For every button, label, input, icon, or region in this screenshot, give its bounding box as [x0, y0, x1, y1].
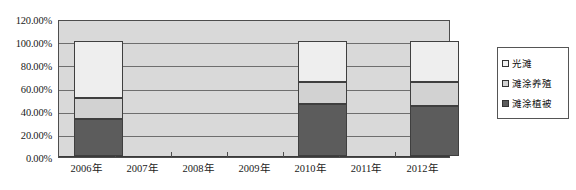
bar-segment-aqua-2006[interactable] — [74, 98, 123, 119]
y-tick-label: 120.00% — [16, 15, 52, 26]
bar-segment-aqua-2010[interactable] — [298, 82, 347, 104]
x-tick — [227, 152, 228, 157]
x-tick-label-2012: 2012年 — [407, 160, 438, 175]
plot-area — [58, 20, 450, 158]
bar-segment-flat-2010[interactable] — [298, 41, 347, 82]
y-tick-label: 80.00% — [21, 61, 52, 72]
legend-label: 滩涂植被 — [512, 96, 552, 110]
bar-segment-flat-2006[interactable] — [74, 41, 123, 98]
y-tick-label: 0.00% — [26, 153, 52, 164]
y-tick-label: 40.00% — [21, 107, 52, 118]
bar-2010[interactable] — [298, 41, 347, 156]
bar-segment-veg-2010[interactable] — [298, 104, 347, 156]
x-tick-label-2009: 2009年 — [239, 160, 270, 175]
bar-2012[interactable] — [410, 41, 459, 156]
legend-swatch-icon — [502, 80, 509, 87]
x-tick-label-2008: 2008年 — [183, 160, 214, 175]
x-tick — [283, 152, 284, 157]
legend-item-tantuyangzhi[interactable]: 滩涂养殖 — [502, 73, 564, 93]
legend-swatch-icon — [502, 60, 509, 67]
legend-item-guangtan[interactable]: 光滩 — [502, 53, 564, 73]
legend-label: 滩涂养殖 — [512, 76, 552, 90]
legend-item-tantuzhibei[interactable]: 滩涂植被 — [502, 93, 564, 113]
legend-label: 光滩 — [512, 56, 532, 70]
x-axis-line — [59, 156, 449, 157]
y-axis-labels: 120.00% 100.00% 80.00% 60.00% 40.00% 20.… — [0, 0, 57, 190]
y-tick-label: 100.00% — [16, 38, 52, 49]
x-tick-label-2011: 2011年 — [351, 160, 382, 175]
legend-swatch-icon — [502, 100, 509, 107]
x-axis-labels: 2006年 2007年 2008年 2009年 2010年 2011年 2012… — [58, 160, 450, 182]
bar-2006[interactable] — [74, 41, 123, 156]
bar-segment-flat-2012[interactable] — [410, 41, 459, 82]
x-tick-label-2010: 2010年 — [295, 160, 326, 175]
x-tick — [171, 152, 172, 157]
bar-segment-aqua-2012[interactable] — [410, 82, 459, 106]
y-tick-label: 60.00% — [21, 84, 52, 95]
y-tick-label: 20.00% — [21, 130, 52, 141]
x-tick — [395, 152, 396, 157]
x-tick-label-2007: 2007年 — [127, 160, 158, 175]
bar-segment-veg-2012[interactable] — [410, 106, 459, 156]
x-tick-label-2006: 2006年 — [71, 160, 102, 175]
chart-legend: 光滩 滩涂养殖 滩涂植被 — [497, 47, 569, 119]
bar-segment-veg-2006[interactable] — [74, 119, 123, 156]
chart-container: 120.00% 100.00% 80.00% 60.00% 40.00% 20.… — [0, 0, 576, 190]
